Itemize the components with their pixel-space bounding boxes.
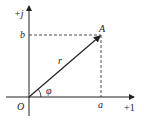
- phasor-vector: [29, 36, 100, 97]
- point-a-label: A: [98, 23, 106, 34]
- angle-label: φ: [46, 85, 52, 96]
- imaginary-axis-label: +j: [14, 8, 24, 19]
- origin-label: O: [17, 101, 24, 112]
- phasor-diagram: +j b A r φ O a +1: [0, 0, 144, 121]
- real-axis-label: +1: [124, 102, 135, 113]
- magnitude-label: r: [58, 55, 62, 66]
- a-label: a: [98, 99, 103, 110]
- angle-arc: [38, 89, 41, 97]
- b-label: b: [20, 29, 25, 40]
